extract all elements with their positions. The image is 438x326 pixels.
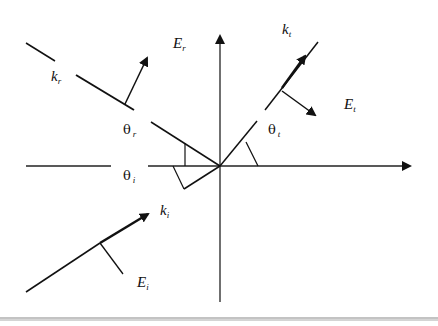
reflected-ray-segment-far [26,43,55,61]
transmitted-field-arrow [282,91,315,115]
reflected-ray-segment [76,75,134,110]
transmitted-ray-near [220,121,257,166]
incident-wavevector-arrow [100,214,148,243]
incident-field-line [100,243,123,274]
label-theta-r: θr [123,122,137,139]
label-theta-i: θi [123,168,136,185]
label-theta-t: θt [268,122,281,139]
label-k-t: kt [282,21,292,39]
diagram-canvas: Er kr kt Et θr θt θi ki Ei [0,0,438,326]
label-E-t: Et [343,96,356,114]
label-E-i: Ei [136,274,149,292]
reflected-field-arrow [125,58,147,104]
theta-t-marker [246,142,258,166]
label-k-r: kr [51,68,62,86]
incident-ray [26,243,100,292]
incident-ray-near [184,166,220,189]
theta-i-marker [173,166,184,189]
transmitted-wavevector-arrow [282,56,305,88]
label-E-r: Er [172,35,186,53]
label-k-i: ki [160,202,170,220]
